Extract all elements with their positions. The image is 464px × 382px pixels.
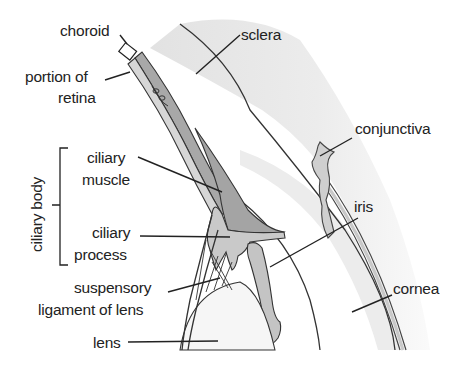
label-portion-of-retina-2: retina (58, 89, 96, 106)
label-conjunctiva: conjunctiva (355, 120, 431, 137)
label-sclera: sclera (241, 26, 282, 43)
label-ciliary-muscle-2: muscle (82, 171, 130, 188)
label-ciliary-process-1: ciliary (92, 224, 131, 241)
label-portion-of-retina-1: portion of (25, 68, 89, 85)
label-suspensory-2: ligament of lens (38, 301, 144, 318)
label-lens: lens (93, 334, 121, 351)
label-ciliary-muscle-1: ciliary (87, 149, 126, 166)
label-choroid: choroid (60, 22, 109, 39)
label-cornea: cornea (393, 280, 440, 297)
label-suspensory-1: suspensory (74, 279, 152, 296)
label-iris: iris (354, 198, 373, 215)
retina-strip (128, 58, 222, 214)
label-ciliary-process-2: process (74, 246, 127, 263)
label-ciliary-body: ciliary body (28, 176, 45, 252)
ciliary-body-bracket (52, 148, 68, 265)
choroid-marker-box (119, 43, 137, 60)
eye-anatomy-diagram: choroid sclera portion of retina conjunc… (0, 0, 464, 382)
